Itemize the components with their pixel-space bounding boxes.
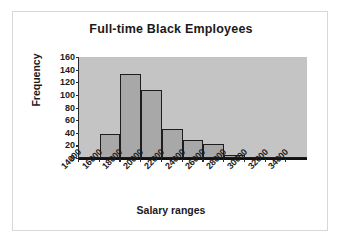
y-axis-tick-label: 60: [49, 116, 75, 125]
x-axis-tick-mark: [78, 159, 79, 162]
y-axis-tick-mark: [76, 82, 79, 83]
x-axis-tick-mark: [223, 159, 224, 162]
x-axis-tick-mark: [161, 159, 162, 162]
y-axis-tick-mark: [76, 70, 79, 71]
y-axis-tick-label: 160: [49, 53, 75, 62]
y-axis-tick-mark: [76, 145, 79, 146]
x-axis-tick-mark: [182, 159, 183, 162]
x-axis-tick-mark: [244, 159, 245, 162]
x-axis-tick-mark: [202, 159, 203, 162]
y-axis-title: Frequency: [30, 30, 42, 130]
x-axis-tick-mark: [140, 159, 141, 162]
y-axis-tick-label: 20: [49, 141, 75, 150]
x-axis-tick-mark: [285, 159, 286, 162]
y-axis-tick-label: 40: [49, 128, 75, 137]
y-axis-tick-mark: [76, 133, 79, 134]
x-axis-title: Salary ranges: [13, 204, 329, 216]
y-axis-tick-mark: [76, 57, 79, 58]
chart-frame: Full-time Black Employees Frequency 1601…: [12, 11, 328, 231]
y-axis-tick-mark: [76, 108, 79, 109]
y-axis-tick-label: 120: [49, 78, 75, 87]
y-axis-tick-labels: 160140120100806040200: [43, 57, 75, 158]
x-axis-tick-mark: [99, 159, 100, 162]
y-axis-tick-mark: [76, 95, 79, 96]
y-axis-tick-label: 100: [49, 90, 75, 99]
histogram-bar: [120, 74, 141, 158]
y-axis-tick-mark: [76, 120, 79, 121]
y-axis-tick-label: 140: [49, 65, 75, 74]
x-axis-tick-mark: [119, 159, 120, 162]
y-axis-tick-label: 80: [49, 103, 75, 112]
plot-wrapper: Frequency 160140120100806040200 Salary r…: [13, 12, 329, 232]
plot-area: [78, 57, 307, 158]
